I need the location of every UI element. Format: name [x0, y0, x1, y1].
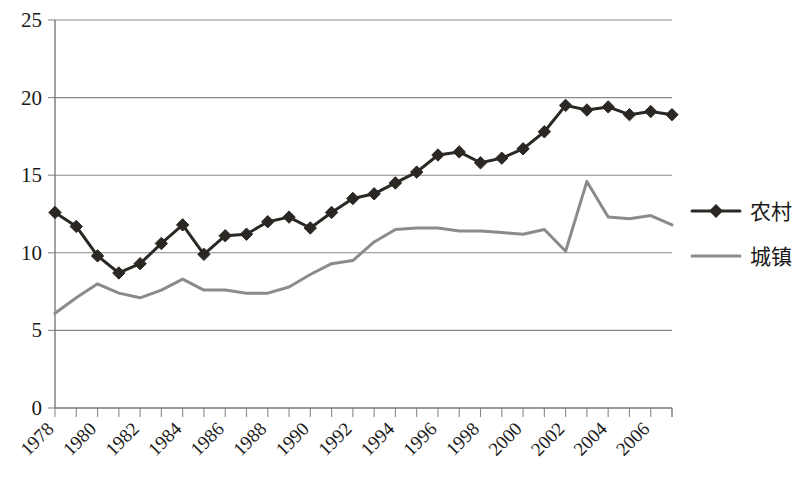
legend-label-urban: 城镇: [750, 245, 792, 269]
chart-canvas: 0510152025 19781980198219841986198819901…: [0, 0, 795, 486]
y-tick-label-5: 5: [32, 318, 43, 342]
y-tick-label-10: 10: [21, 241, 42, 265]
y-tick-label-15: 15: [21, 163, 42, 187]
y-tick-label-25: 25: [21, 8, 42, 32]
line-chart: 0510152025 19781980198219841986198819901…: [0, 0, 795, 486]
legend-label-rural: 农村: [750, 200, 792, 224]
y-tick-label-20: 20: [21, 86, 42, 110]
y-tick-label-0: 0: [32, 396, 43, 420]
